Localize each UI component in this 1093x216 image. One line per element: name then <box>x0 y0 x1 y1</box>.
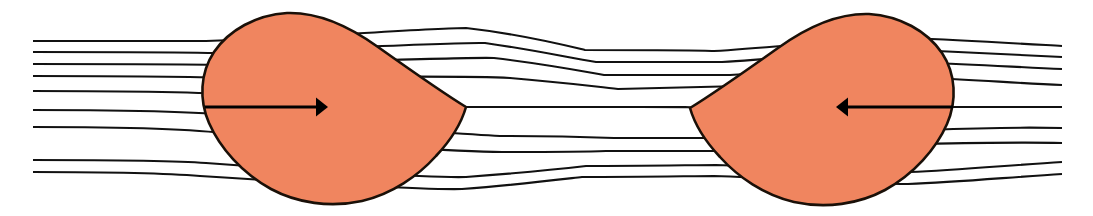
flow-diagram-canvas: Two teardrop bodies approaching each oth… <box>0 0 1093 216</box>
streamline-flow-figure: Two teardrop bodies approaching each oth… <box>0 0 1093 216</box>
